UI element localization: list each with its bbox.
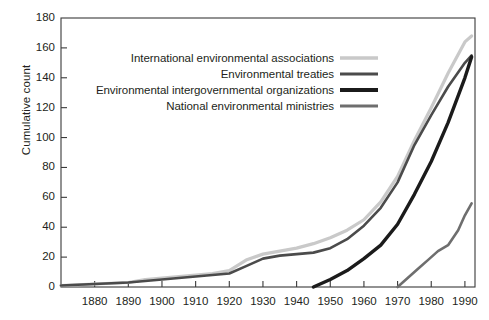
legend-swatch-line — [340, 87, 378, 93]
chart-container: Cumulative count 02040608010012014016018… — [0, 0, 489, 320]
legend-swatch-line — [340, 71, 378, 77]
legend-label: Environmental treaties — [221, 68, 334, 80]
legend-swatch-line — [340, 55, 378, 61]
legend-item: International environmental associations — [96, 50, 378, 66]
legend-label: Environmental intergovernmental organiza… — [96, 84, 334, 96]
y-tick-label: 20 — [25, 251, 55, 262]
y-tick-label: 0 — [25, 281, 55, 292]
y-tick-label: 100 — [25, 132, 55, 143]
legend-label: National environmental ministries — [166, 100, 334, 112]
y-tick-label: 60 — [25, 191, 55, 202]
y-tick-label: 120 — [25, 102, 55, 113]
plot-area — [0, 0, 489, 320]
y-tick-label: 80 — [25, 161, 55, 172]
y-tick-label: 160 — [25, 42, 55, 53]
y-tick-label: 140 — [25, 72, 55, 83]
y-tick-label: 40 — [25, 221, 55, 232]
legend-item: National environmental ministries — [96, 98, 378, 114]
legend-item: Environmental treaties — [96, 66, 378, 82]
x-tick-label: 1990 — [445, 296, 485, 307]
legend-item: Environmental intergovernmental organiza… — [96, 82, 378, 98]
chart-legend: International environmental associations… — [96, 50, 378, 114]
legend-label: International environmental associations — [131, 52, 334, 64]
y-tick-label: 180 — [25, 12, 55, 23]
legend-swatch-line — [340, 103, 378, 109]
